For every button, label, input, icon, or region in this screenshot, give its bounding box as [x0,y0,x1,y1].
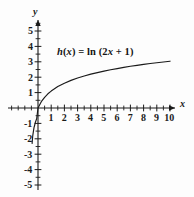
x-tick-label-8: 8 [141,113,146,123]
y-tick-label-1: 1 [28,88,33,98]
equation-rhs-open: (2 [96,46,108,57]
x-tick-label-5: 5 [101,113,106,123]
logarithmic-function-graph: h(x) = ln (2x + 1) x y 1 2 3 4 5 6 7 8 9… [0,0,194,197]
x-tick-label-7: 7 [128,113,133,123]
equation-rhs-tail: + 1) [113,46,133,57]
y-tick-label-neg2: -2 [24,134,32,144]
y-tick-label-5: 5 [28,26,33,36]
x-tick-label-6: 6 [115,113,120,123]
x-tick-label-3: 3 [75,113,80,123]
x-axis-label: x [180,99,185,109]
x-tick-label-9: 9 [154,113,159,123]
y-tick-label-neg1: -1 [24,119,32,129]
equation-ln: ln [87,46,96,57]
equation-annotation: h(x) = ln (2x + 1) [57,46,134,57]
x-tick-label-2: 2 [62,113,67,123]
x-tick-label-10: 10 [164,113,174,123]
y-tick-label-neg3: -3 [24,150,32,160]
y-tick-label-2: 2 [28,73,33,83]
y-tick-label-neg5: -5 [24,180,32,190]
y-axis-label: y [33,7,37,17]
y-tick-label-3: 3 [28,57,33,67]
y-tick-label-4: 4 [28,42,33,52]
y-tick-label-neg4: -4 [24,165,32,175]
equation-equals: = [76,46,88,57]
x-tick-label-1: 1 [49,113,54,123]
x-tick-label-4: 4 [88,113,93,123]
function-curve [32,61,170,143]
